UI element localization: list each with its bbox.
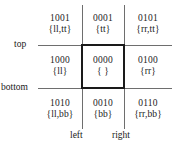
cell-top-center: 0001 {tt} — [82, 13, 124, 35]
cell-code: 0110 — [124, 98, 172, 109]
axis-label-top: top — [14, 39, 26, 49]
cell-set: {tt} — [82, 24, 124, 35]
cell-code: 1010 — [38, 98, 82, 109]
cell-top-right: 0101 {rr,tt} — [124, 13, 172, 35]
cell-code: 0101 — [124, 13, 172, 24]
region-code-diagram: 1001 {ll,tt} 0001 {tt} 0101 {rr,tt} 1000… — [0, 0, 177, 146]
cell-code: 0001 — [82, 13, 124, 24]
cell-middle-right: 0100 {rr} — [124, 55, 172, 77]
cell-set: {ll} — [38, 66, 82, 77]
cell-code: 0100 — [124, 55, 172, 66]
cell-bottom-center: 0010 {bb} — [82, 98, 124, 120]
cell-top-left: 1001 {ll,tt} — [38, 13, 82, 35]
cell-set: {bb} — [82, 109, 124, 120]
cell-set: {rr,bb} — [124, 109, 172, 120]
cell-set: { } — [82, 66, 124, 77]
cell-code: 0010 — [82, 98, 124, 109]
axis-label-right: right — [112, 130, 130, 140]
axis-label-left: left — [70, 130, 83, 140]
cell-middle-left: 1000 {ll} — [38, 55, 82, 77]
cell-code: 0000 — [82, 55, 124, 66]
cell-bottom-right: 0110 {rr,bb} — [124, 98, 172, 120]
cell-middle-center: 0000 { } — [82, 55, 124, 77]
cell-set: {ll,tt} — [38, 24, 82, 35]
cell-code: 1001 — [38, 13, 82, 24]
axis-label-bottom: bottom — [1, 82, 28, 92]
cell-set: {ll,bb} — [38, 109, 82, 120]
cell-bottom-left: 1010 {ll,bb} — [38, 98, 82, 120]
cell-set: {rr,tt} — [124, 24, 172, 35]
cell-code: 1000 — [38, 55, 82, 66]
cell-set: {rr} — [124, 66, 172, 77]
